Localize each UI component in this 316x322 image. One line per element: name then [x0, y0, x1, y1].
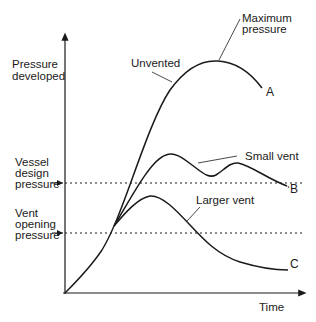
larger-vent-label: Larger vent — [196, 194, 255, 206]
x-axis-label: Time — [259, 301, 284, 313]
b-leader — [288, 186, 289, 188]
vent-opening-label-3: pressure — [15, 229, 60, 241]
max-pressure-label-2: pressure — [242, 23, 287, 35]
small-vent-leader — [198, 156, 237, 163]
y-axis-label: Pressure — [12, 58, 58, 70]
y-axis-label-2: developed — [12, 70, 65, 82]
unvented-leader — [152, 72, 172, 82]
small-vent-label: Small vent — [245, 150, 299, 162]
common-rise-curve — [65, 226, 114, 293]
small-vent-curve — [114, 154, 287, 226]
curve-end-b: B — [290, 182, 298, 196]
unvented-label: Unvented — [131, 57, 180, 69]
vessel-design-label-3: pressure — [15, 178, 60, 190]
max-pressure-leader — [219, 19, 240, 60]
pressure-time-diagram: Pressure developed Unvented Maximum pres… — [0, 0, 316, 322]
curve-end-a: A — [266, 85, 274, 99]
larger-vent-leader — [187, 207, 200, 221]
curve-end-c: C — [290, 257, 299, 271]
